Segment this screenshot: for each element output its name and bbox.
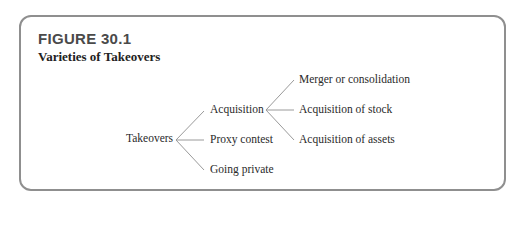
node-acquisition-of-stock: Acquisition of stock: [299, 103, 392, 115]
node-acquisition: Acquisition: [210, 103, 264, 115]
node-going-private: Going private: [210, 163, 274, 175]
node-proxy-contest: Proxy contest: [210, 133, 273, 145]
node-acquisition-of-assets: Acquisition of assets: [299, 133, 395, 145]
node-merger-or-consolidation: Merger or consolidation: [299, 73, 410, 85]
node-takeovers: Takeovers: [126, 132, 173, 144]
